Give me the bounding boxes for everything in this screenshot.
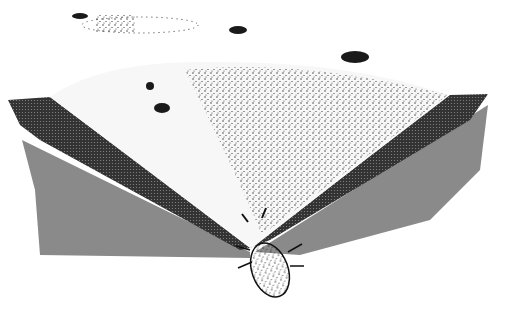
antlion-pit-illustration — [0, 0, 506, 316]
